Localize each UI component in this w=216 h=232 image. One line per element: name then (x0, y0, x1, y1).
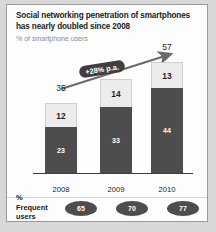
stacked-bar: 12 23 (45, 103, 77, 173)
frequent-users-badge-2009: 70 (116, 201, 148, 216)
bar-segment-lower: 44 (151, 88, 183, 173)
x-axis-tick-2010: 2010 (147, 185, 187, 194)
bar-segment-upper: 12 (45, 103, 77, 127)
stacked-bar: 14 33 (100, 79, 132, 173)
stacked-bar: 13 44 (151, 62, 183, 173)
frequent-users-label-line2: Frequent (16, 203, 48, 213)
frequent-users-label-line3: users (16, 212, 48, 222)
chart-slide: Social networking penetration of smartph… (6, 4, 208, 222)
bar-segment-value: 13 (162, 71, 171, 81)
bar-segment-value: 14 (111, 89, 120, 99)
bar-segment-lower: 23 (45, 127, 77, 173)
chart-title: Social networking penetration of smartph… (16, 11, 202, 32)
chart-plot-area: +28% p.a. 35 12 23 47 14 33 (7, 49, 208, 183)
frequent-users-label-line1: % (16, 193, 48, 203)
bar-segment-value: 33 (112, 137, 120, 144)
frequent-users-badge-2010: 77 (167, 201, 199, 216)
x-axis-tick-2009: 2009 (96, 185, 136, 194)
frequent-users-label: % Frequent users (16, 193, 48, 222)
frequent-users-badge-2008: 65 (65, 201, 97, 216)
bar-segment-lower: 33 (100, 107, 132, 173)
bar-segment-value: 12 (56, 111, 65, 121)
bar-total-label: 35 (41, 83, 81, 93)
bar-total-label: 57 (147, 42, 187, 52)
x-axis-line (33, 173, 193, 175)
chart-header: Social networking penetration of smartph… (16, 11, 202, 43)
bar-segment-value: 23 (57, 147, 65, 154)
bar-segment-upper: 14 (100, 79, 132, 107)
bar-segment-upper: 13 (151, 62, 183, 88)
bar-segment-value: 44 (163, 127, 171, 134)
